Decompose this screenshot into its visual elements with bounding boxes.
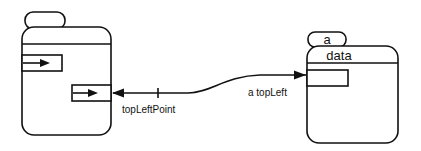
source-label: topLeftPoint	[122, 104, 176, 115]
left-object-slot-1[interactable]	[22, 55, 62, 71]
right-object-header-label: data	[326, 48, 352, 63]
right-object-tab-label: a	[323, 32, 331, 47]
right-object-slot-1[interactable]	[307, 70, 348, 86]
arrow-left-icon	[112, 89, 124, 98]
left-object-slot-2[interactable]	[72, 85, 111, 101]
right-object[interactable]: a data	[307, 32, 398, 143]
target-label: a topLeft	[248, 87, 287, 98]
right-object-body[interactable]	[307, 46, 398, 143]
connection[interactable]: topLeftPoint a topLeft	[112, 71, 306, 116]
left-object[interactable]	[22, 12, 111, 135]
arrow-right-icon	[294, 71, 306, 80]
diagram-canvas: topLeftPoint a topLeft a data	[0, 0, 421, 151]
